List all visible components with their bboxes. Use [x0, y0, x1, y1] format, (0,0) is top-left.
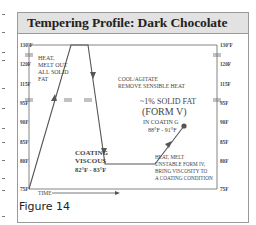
svg-text:88°F - 91°F: 88°F - 91°F [148, 127, 177, 133]
end-point-marker [181, 123, 186, 128]
reheat-label: HEAT, MELT UNSTABLE FORM IV, BRING VISCO… [155, 154, 213, 181]
svg-text:90F: 90F [220, 119, 228, 125]
down-arrow-icon [90, 72, 96, 79]
svg-text:HEAT, MELT: HEAT, MELT [155, 154, 185, 160]
svg-text:A COATING CONDITION: A COATING CONDITION [155, 175, 213, 181]
svg-text:82°F - 83°F: 82°F - 83°F [75, 166, 106, 173]
figure-label: Figure 14 [19, 200, 70, 213]
svg-text:REMOVE SENSIBLE HEAT: REMOVE SENSIBLE HEAT [118, 83, 185, 89]
svg-text:85F: 85F [20, 139, 28, 145]
svg-text:130ºF: 130ºF [20, 42, 33, 48]
svg-text:85F: 85F [220, 139, 228, 145]
svg-text:HEAT,: HEAT, [38, 55, 55, 61]
arrow-right-icon [115, 191, 120, 195]
svg-text:FAT: FAT [38, 76, 49, 82]
svg-text:80F: 80F [20, 158, 28, 164]
svg-text:120F: 120F [20, 61, 31, 67]
svg-text:115F: 115F [20, 81, 31, 87]
svg-text:95F: 95F [220, 100, 228, 106]
svg-text:115F: 115F [220, 81, 231, 87]
svg-text:MELT OUT: MELT OUT [38, 62, 68, 68]
heat-melt-label: HEAT, MELT OUT ALL SOLID FAT [38, 55, 69, 82]
time-label: TIME [38, 190, 52, 196]
svg-text:75F: 75F [220, 186, 228, 192]
svg-text:COOL/AGITATE: COOL/AGITATE [118, 76, 159, 82]
svg-text:ALL SOLID: ALL SOLID [38, 69, 69, 75]
right-axis-ticks: 130ºF 120F 115F 95F 90F 85F 80F 75F [220, 42, 233, 192]
svg-text:IN COATIN G: IN COATIN G [143, 119, 179, 125]
tempering-chart: 130ºF 120F 115F 95F 90F 85F 80F 75F 130º… [0, 0, 256, 225]
svg-text:90F: 90F [20, 119, 28, 125]
svg-text:95F: 95F [20, 100, 28, 106]
svg-text:~1% SOLID FAT: ~1% SOLID FAT [140, 97, 196, 106]
svg-text:120F: 120F [220, 61, 231, 67]
svg-text:VISCOUS: VISCOUS [75, 157, 106, 165]
svg-text:75F: 75F [20, 186, 28, 192]
svg-text:80F: 80F [220, 158, 228, 164]
up-right-arrow-icon [165, 141, 172, 148]
cool-agitate-label: COOL/AGITATE REMOVE SENSIBLE HEAT [118, 76, 185, 89]
solid-fat-label: ~1% SOLID FAT (FORM V) IN COATIN G 88°F … [140, 97, 196, 133]
left-axis-ticks: 130ºF 120F 115F 95F 90F 85F 80F 75F [20, 42, 33, 192]
svg-text:BRING VISCOSITY TO: BRING VISCOSITY TO [155, 168, 208, 174]
svg-text:(FORM V): (FORM V) [142, 106, 187, 118]
coating-viscous-label: COATING VISCOUS 82°F - 83°F [75, 149, 108, 173]
svg-text:COATING: COATING [75, 149, 108, 157]
svg-text:130ºF: 130ºF [220, 42, 233, 48]
svg-text:UNSTABLE FORM IV,: UNSTABLE FORM IV, [155, 161, 205, 167]
